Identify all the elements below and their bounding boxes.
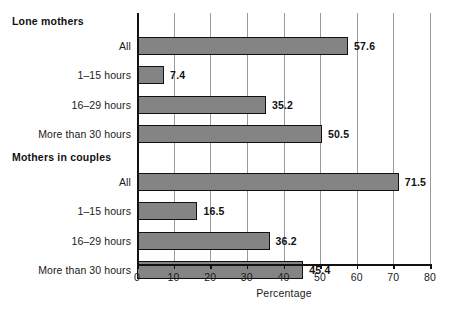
- bar: [137, 173, 399, 191]
- x-tick-label: 20: [204, 271, 216, 283]
- x-tick-label: 60: [351, 271, 363, 283]
- tick-mark-80: [430, 264, 432, 269]
- bar-value-label: 71.5: [405, 176, 426, 188]
- group-header-1: Lone mothers: [12, 15, 84, 27]
- bar-value-label: 7.4: [170, 69, 185, 81]
- category-label: More than 30 hours: [5, 264, 137, 276]
- tick-mark-70: [393, 264, 395, 269]
- tick-mark-60: [357, 264, 359, 269]
- category-label: 1–15 hours: [5, 69, 137, 81]
- tick-mark-10: [174, 264, 176, 269]
- tick-mark-50: [320, 264, 322, 269]
- bar: [137, 232, 270, 250]
- bar: [137, 96, 266, 114]
- x-tick-label: 70: [387, 271, 399, 283]
- bar: [137, 37, 348, 55]
- y-axis-spine: [137, 13, 139, 264]
- tick-mark-40: [284, 264, 286, 269]
- tick-mark-30: [247, 264, 249, 269]
- category-label: 16–29 hours: [5, 99, 137, 111]
- group-header-2: Mothers in couples: [12, 151, 111, 163]
- bar-value-label: 35.2: [272, 99, 293, 111]
- bar-value-label: 57.6: [354, 40, 375, 52]
- x-axis-title: Percentage: [137, 287, 431, 299]
- gridline-80: [430, 13, 431, 264]
- x-tick-label: 30: [241, 271, 253, 283]
- category-label: All: [5, 40, 137, 52]
- bar-value-label: 50.5: [328, 128, 349, 140]
- category-label: 1–15 hours: [5, 205, 137, 217]
- x-tick-label: 80: [424, 271, 436, 283]
- tick-mark-20: [210, 264, 212, 269]
- bar: [137, 66, 164, 84]
- plot-area: 57.67.435.250.571.516.536.245.4: [137, 13, 430, 264]
- x-tick-label: 40: [277, 271, 289, 283]
- x-tick-label: 10: [168, 271, 180, 283]
- category-label: More than 30 hours: [5, 128, 137, 140]
- bar-value-label: 16.5: [203, 205, 224, 217]
- category-label: 16–29 hours: [5, 235, 137, 247]
- x-tick-label: 50: [314, 271, 326, 283]
- tick-mark-0: [137, 264, 139, 269]
- bar-value-label: 36.2: [276, 235, 297, 247]
- gridline-70: [393, 13, 394, 264]
- bar: [137, 125, 322, 143]
- bar-chart: 57.67.435.250.571.516.536.245.4 01020304…: [0, 0, 451, 311]
- category-label: All: [5, 176, 137, 188]
- bar: [137, 202, 197, 220]
